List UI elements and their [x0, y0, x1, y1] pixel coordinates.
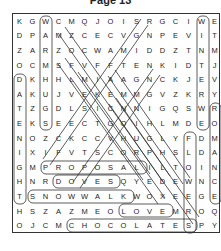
letter-cell[interactable]: O [65, 43, 78, 58]
letter-cell[interactable]: V [143, 204, 156, 219]
letter-cell[interactable]: W [39, 14, 52, 29]
letter-cell[interactable]: T [78, 145, 91, 160]
letter-cell[interactable]: E [130, 58, 143, 73]
letter-cell[interactable]: G [156, 102, 169, 117]
letter-cell[interactable]: C [91, 131, 104, 146]
letter-cell[interactable]: O [13, 58, 26, 73]
letter-cell[interactable]: I [143, 102, 156, 117]
letter-cell[interactable]: A [13, 87, 26, 102]
letter-cell[interactable]: I [130, 116, 143, 131]
letter-cell[interactable]: O [52, 189, 65, 204]
letter-cell[interactable]: E [169, 29, 182, 44]
letter-cell[interactable]: I [182, 14, 195, 29]
letter-cell[interactable]: N [117, 102, 130, 117]
letter-cell[interactable]: Z [52, 43, 65, 58]
letter-cell[interactable]: S [26, 204, 39, 219]
letter-cell[interactable]: S [130, 14, 143, 29]
letter-cell[interactable]: M [78, 72, 91, 87]
letter-cell[interactable]: M [65, 14, 78, 29]
letter-cell[interactable]: C [65, 218, 78, 233]
letter-cell[interactable]: E [182, 189, 195, 204]
letter-cell[interactable]: D [156, 175, 169, 190]
letter-cell[interactable]: P [26, 29, 39, 44]
letter-cell[interactable]: X [26, 145, 39, 160]
letter-cell[interactable]: C [52, 131, 65, 146]
letter-cell[interactable]: T [169, 160, 182, 175]
letter-cell[interactable]: O [208, 116, 221, 131]
letter-cell[interactable]: M [117, 87, 130, 102]
letter-cell[interactable]: Z [169, 87, 182, 102]
letter-cell[interactable]: K [182, 87, 195, 102]
letter-cell[interactable]: Z [39, 204, 52, 219]
letter-cell[interactable]: K [65, 131, 78, 146]
letter-cell[interactable]: F [182, 131, 195, 146]
letter-cell[interactable]: H [143, 116, 156, 131]
letter-cell[interactable]: O [65, 160, 78, 175]
letter-cell[interactable]: E [169, 175, 182, 190]
letter-cell[interactable]: S [169, 145, 182, 160]
letter-cell[interactable]: H [117, 131, 130, 146]
letter-cell[interactable]: Z [169, 43, 182, 58]
letter-cell[interactable]: C [39, 218, 52, 233]
letter-cell[interactable]: D [13, 29, 26, 44]
letter-cell[interactable]: S [78, 102, 91, 117]
letter-cell[interactable]: N [143, 29, 156, 44]
letter-cell[interactable]: A [39, 29, 52, 44]
letter-cell[interactable]: L [65, 102, 78, 117]
letter-cell[interactable]: D [182, 58, 195, 73]
letter-cell[interactable]: O [117, 116, 130, 131]
letter-cell[interactable]: G [130, 72, 143, 87]
letter-cell[interactable]: A [143, 218, 156, 233]
letter-cell[interactable]: N [13, 131, 26, 146]
letter-cell[interactable]: K [26, 116, 39, 131]
letter-cell[interactable]: S [104, 175, 117, 190]
letter-cell[interactable]: W [130, 189, 143, 204]
letter-cell[interactable]: C [78, 29, 91, 44]
letter-cell[interactable]: S [52, 58, 65, 73]
letter-cell[interactable]: N [143, 58, 156, 73]
letter-cell[interactable]: A [104, 72, 117, 87]
letter-cell[interactable]: R [130, 145, 143, 160]
letter-cell[interactable]: S [39, 116, 52, 131]
letter-cell[interactable]: M [39, 58, 52, 73]
letter-cell[interactable]: K [26, 72, 39, 87]
letter-cell[interactable]: M [208, 43, 221, 58]
letter-cell[interactable]: I [195, 29, 208, 44]
letter-cell[interactable]: Z [65, 204, 78, 219]
letter-cell[interactable]: G [39, 102, 52, 117]
letter-cell[interactable]: M [26, 160, 39, 175]
letter-cell[interactable]: I [195, 160, 208, 175]
letter-cell[interactable]: G [195, 189, 208, 204]
letter-cell[interactable]: N [39, 189, 52, 204]
letter-cell[interactable]: N [195, 175, 208, 190]
letter-cell[interactable]: F [52, 145, 65, 160]
letter-cell[interactable]: A [26, 43, 39, 58]
letter-cell[interactable]: J [52, 87, 65, 102]
letter-cell[interactable]: L [130, 218, 143, 233]
letter-cell[interactable]: G [130, 29, 143, 44]
letter-cell[interactable]: L [156, 131, 169, 146]
letter-cell[interactable]: V [156, 87, 169, 102]
letter-cell[interactable]: C [208, 175, 221, 190]
letter-cell[interactable]: M [169, 116, 182, 131]
letter-cell[interactable]: X [156, 189, 169, 204]
letter-cell[interactable]: K [91, 87, 104, 102]
letter-cell[interactable]: U [130, 131, 143, 146]
letter-cell[interactable]: W [195, 14, 208, 29]
letter-cell[interactable]: G [13, 160, 26, 175]
letter-cell[interactable]: A [117, 72, 130, 87]
letter-cell[interactable]: S [91, 145, 104, 160]
letter-cell[interactable]: C [169, 14, 182, 29]
letter-cell[interactable]: V [65, 145, 78, 160]
letter-cell[interactable]: L [156, 160, 169, 175]
letter-cell[interactable]: M [208, 131, 221, 146]
letter-cell[interactable]: E [91, 29, 104, 44]
letter-cell[interactable]: R [143, 14, 156, 29]
letter-cell[interactable]: P [156, 29, 169, 44]
letter-cell[interactable]: K [169, 72, 182, 87]
letter-cell[interactable]: H [13, 175, 26, 190]
letter-cell[interactable]: I [143, 160, 156, 175]
letter-cell[interactable]: D [195, 131, 208, 146]
letter-cell[interactable]: A [52, 204, 65, 219]
letter-cell[interactable]: D [195, 145, 208, 160]
